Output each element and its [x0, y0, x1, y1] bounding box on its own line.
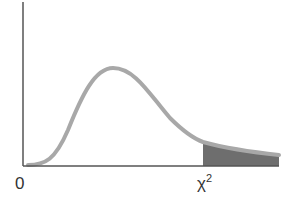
- chi-symbol: χ: [197, 174, 206, 193]
- critical-value-label: χ2: [197, 172, 212, 194]
- origin-label: 0: [15, 174, 24, 194]
- chi-exponent: 2: [206, 172, 212, 184]
- chi-square-chart: [0, 0, 291, 201]
- density-curve: [28, 68, 279, 165]
